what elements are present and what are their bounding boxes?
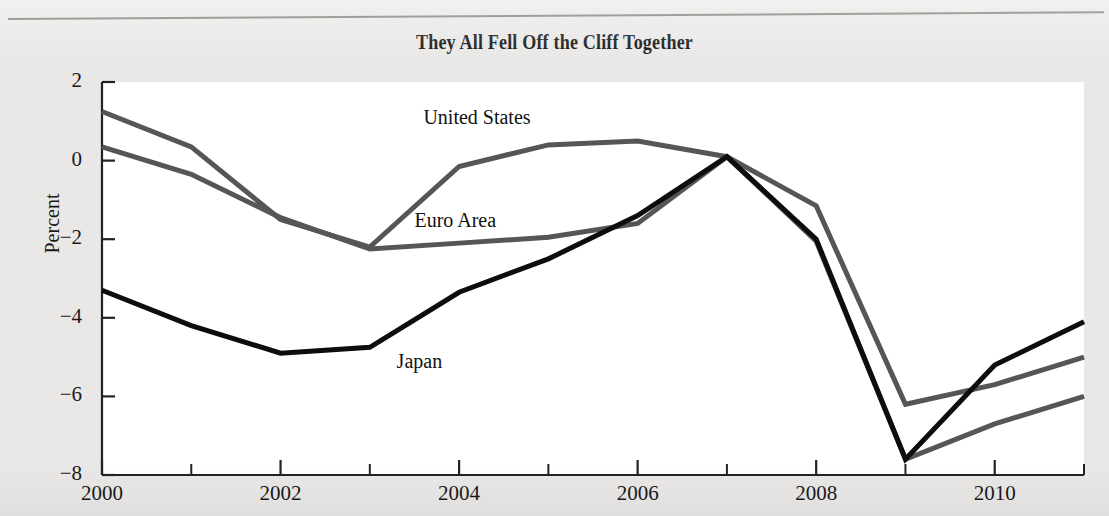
line-chart-canvas xyxy=(0,0,1109,516)
series-label-united-states: United States xyxy=(423,106,530,129)
y-tick-label: 2 xyxy=(36,68,82,93)
x-tick-label: 2002 xyxy=(236,481,326,506)
y-tick-label: −6 xyxy=(36,382,82,407)
y-tick-label: −4 xyxy=(36,304,82,329)
y-tick-label: 0 xyxy=(36,147,82,172)
series-line-united-states xyxy=(102,111,1084,404)
chart-page: They All Fell Off the Cliff Together Per… xyxy=(0,0,1109,516)
x-tick-label: 2004 xyxy=(414,481,504,506)
series-label-euro-area: Euro Area xyxy=(414,209,496,232)
x-tick-label: 2010 xyxy=(950,481,1040,506)
y-tick-label: −2 xyxy=(36,225,82,250)
series-label-japan: Japan xyxy=(397,350,443,373)
chart-series xyxy=(102,111,1084,459)
x-tick-label: 2008 xyxy=(771,481,861,506)
x-tick-label: 2006 xyxy=(593,481,683,506)
x-tick-label: 2000 xyxy=(57,481,147,506)
